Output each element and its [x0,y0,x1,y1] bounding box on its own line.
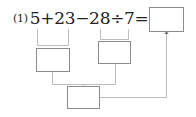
step-box-5-plus-23[interactable] [36,48,70,72]
bracket-5-plus-23 [38,29,69,46]
answer-box[interactable] [149,7,184,32]
bracket-28-div-7 [101,29,129,40]
step-box-28-div-7[interactable] [98,41,131,64]
step-box-combined[interactable] [67,86,100,109]
